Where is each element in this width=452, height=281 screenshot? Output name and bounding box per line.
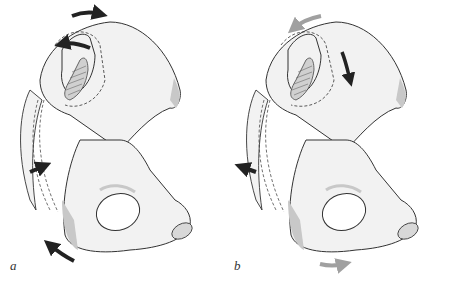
arrow-bottom-upleft — [50, 245, 74, 261]
arrow-top-right — [72, 13, 100, 16]
pelvis-illustration-a — [0, 0, 226, 281]
panel-a: a — [0, 0, 226, 281]
pelvis-illustration-b — [226, 0, 452, 281]
panel-b: b — [226, 0, 452, 281]
arrow-bottom-right — [320, 264, 344, 266]
panel-label-a: a — [10, 258, 17, 274]
panel-label-b: b — [234, 258, 241, 274]
